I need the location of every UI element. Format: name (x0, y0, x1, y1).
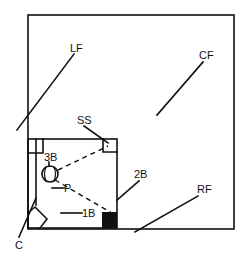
baseball-stitch-left (45, 167, 47, 181)
label-2b: 2B (134, 168, 147, 180)
first-base-marker (102, 212, 117, 228)
lf-pointer (17, 54, 74, 130)
label-rf: RF (197, 183, 212, 195)
label-1b: 1B (82, 207, 95, 219)
label-ss: SS (77, 114, 92, 126)
ss-pointer (84, 126, 108, 143)
label-cf: CF (199, 49, 214, 61)
throw-path-to-second (58, 146, 108, 170)
baseball-stitch-right (54, 167, 56, 181)
baseball-field-diagram: LF CF SS 3B P 2B 1B RF C (0, 0, 250, 255)
label-lf: LF (70, 42, 83, 54)
cf-pointer (157, 62, 203, 115)
label-c: C (15, 239, 23, 251)
outfield-boundary (28, 15, 234, 229)
rf-pointer (135, 196, 198, 232)
label-p: P (64, 182, 71, 194)
label-3b: 3B (44, 151, 57, 163)
second-base-pointer (117, 181, 139, 200)
